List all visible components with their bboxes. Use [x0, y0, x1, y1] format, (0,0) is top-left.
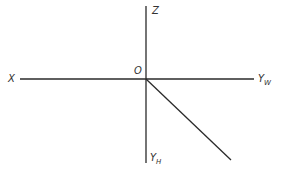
yh-sub: H: [156, 158, 161, 166]
yw-sub: W: [264, 79, 271, 87]
origin-label: O: [134, 66, 142, 76]
diagonal-45-line: [146, 79, 231, 160]
yw-axis-label: YW: [258, 74, 271, 84]
yh-axis-label: YH: [150, 153, 161, 163]
x-axis-label: X: [8, 74, 15, 84]
z-axis-label: Z: [152, 6, 159, 16]
projection-axes-diagram: [0, 0, 282, 178]
